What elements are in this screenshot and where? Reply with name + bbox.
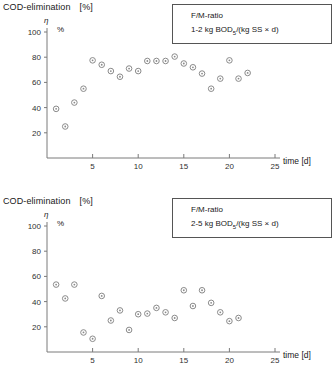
svg-text:100: 100	[28, 222, 42, 231]
data-point	[236, 76, 242, 82]
svg-text:20: 20	[225, 356, 234, 365]
svg-text:10: 10	[134, 356, 143, 365]
svg-text:5: 5	[90, 356, 95, 365]
chart-panel-1: COD-elimination[%] η % F/M-ratio 1-2 kg …	[0, 0, 336, 194]
data-point	[53, 282, 59, 288]
svg-text:20: 20	[32, 129, 41, 138]
data-point	[163, 58, 169, 64]
data-point	[81, 86, 87, 92]
data-point	[199, 287, 205, 293]
data-point	[108, 318, 114, 324]
svg-text:100: 100	[28, 28, 42, 37]
svg-text:25: 25	[271, 356, 280, 365]
data-point-group	[53, 54, 250, 130]
data-point	[99, 62, 105, 68]
data-point	[208, 300, 214, 306]
data-point	[126, 66, 132, 72]
svg-text:40: 40	[32, 298, 41, 307]
chart2-x-axis-name: time [d]	[283, 350, 311, 360]
data-point	[217, 310, 223, 316]
svg-text:15: 15	[179, 356, 188, 365]
data-point	[236, 315, 242, 321]
data-point	[154, 305, 160, 311]
data-point	[227, 318, 233, 324]
data-point	[108, 68, 114, 74]
data-point	[117, 308, 123, 314]
svg-text:60: 60	[32, 78, 41, 87]
data-point	[145, 311, 151, 317]
svg-text:15: 15	[179, 162, 188, 171]
data-point	[199, 71, 205, 77]
data-point	[117, 74, 123, 80]
data-point	[72, 282, 78, 288]
data-point	[245, 70, 251, 76]
data-point	[172, 54, 178, 60]
data-point	[163, 310, 169, 316]
data-point	[172, 315, 178, 321]
data-point	[90, 58, 96, 64]
svg-text:25: 25	[271, 162, 280, 171]
data-point	[135, 68, 141, 74]
data-point	[99, 293, 105, 299]
data-point	[190, 303, 196, 309]
svg-text:60: 60	[32, 272, 41, 281]
data-point	[90, 336, 96, 342]
data-point	[208, 86, 214, 92]
svg-text:20: 20	[32, 323, 41, 332]
data-point	[81, 330, 87, 336]
data-point	[135, 311, 141, 317]
svg-text:80: 80	[32, 247, 41, 256]
svg-text:5: 5	[90, 162, 95, 171]
data-point	[62, 296, 68, 302]
svg-text:80: 80	[32, 53, 41, 62]
data-point	[53, 106, 59, 112]
data-point	[126, 327, 132, 333]
data-point	[181, 287, 187, 293]
data-point	[62, 124, 68, 130]
svg-text:40: 40	[32, 104, 41, 113]
data-point	[72, 100, 78, 106]
data-point	[217, 76, 223, 82]
svg-text:10: 10	[134, 162, 143, 171]
data-point	[181, 61, 187, 67]
chart-panel-2: COD-elimination[%] η % F/M-ratio 2-5 kg …	[0, 194, 336, 388]
data-point	[145, 58, 151, 64]
data-point	[227, 58, 233, 64]
data-point	[190, 64, 196, 70]
chart1-x-axis-name: time [d]	[283, 156, 311, 166]
svg-text:20: 20	[225, 162, 234, 171]
data-point	[154, 58, 160, 64]
data-point-group	[53, 282, 241, 342]
